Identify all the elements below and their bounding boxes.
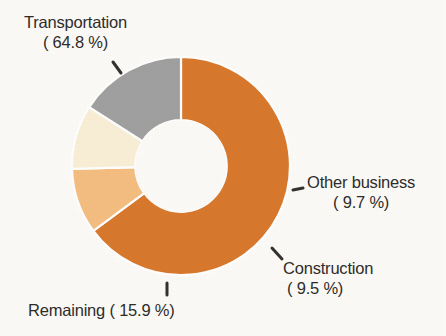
- leader-line-other-business: [293, 188, 303, 190]
- pie-chart: Transportation ( 64.8 %) Other business …: [0, 0, 446, 336]
- slice-label-construction: Construction ( 9.5 %): [283, 258, 373, 298]
- leader-line-transportation: [113, 62, 121, 73]
- slice-label-other-business-name: Other business: [307, 172, 415, 192]
- slice-label-remaining-name: Remaining ( 15.9 %): [28, 300, 175, 320]
- leader-line-construction: [272, 248, 282, 259]
- slice-label-construction-percent: ( 9.5 %): [283, 278, 373, 298]
- slice-label-remaining: Remaining ( 15.9 %): [28, 300, 175, 320]
- slice-label-transportation: Transportation ( 64.8 %): [24, 12, 127, 52]
- slice-label-transportation-name: Transportation: [24, 12, 127, 32]
- slice-label-other-business-percent: ( 9.7 %): [307, 192, 415, 212]
- slice-label-transportation-percent: ( 64.8 %): [24, 32, 127, 52]
- donut-hole: [135, 120, 227, 212]
- slice-label-other-business: Other business ( 9.7 %): [307, 172, 415, 212]
- slice-label-construction-name: Construction: [283, 258, 373, 278]
